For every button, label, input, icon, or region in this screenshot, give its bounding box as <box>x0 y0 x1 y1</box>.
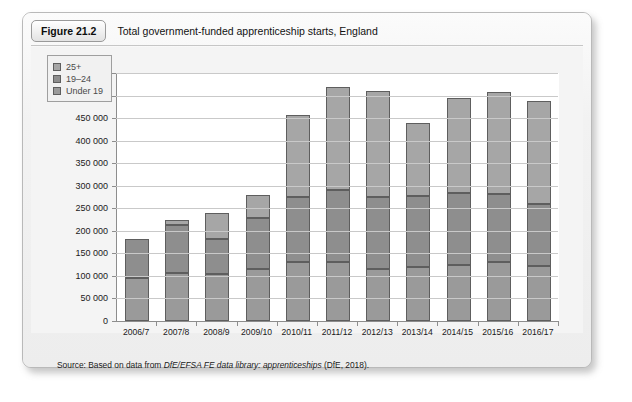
bar-segment[interactable] <box>326 190 350 263</box>
y-axis-tick <box>112 186 116 187</box>
bar-segment[interactable] <box>366 91 390 197</box>
plot-area <box>116 73 559 322</box>
legend-label-19-24: 19–24 <box>66 74 91 84</box>
bar-segment[interactable] <box>165 220 189 225</box>
figure-page: Figure 21.2 Total government-funded appr… <box>0 0 632 402</box>
chart-legend: 25+ 19–24 Under 19 <box>47 55 112 102</box>
bar-segment[interactable] <box>406 123 430 196</box>
bar-group[interactable] <box>165 73 189 321</box>
bar-segment[interactable] <box>487 92 511 193</box>
source-prefix: Source: Based on data from <box>57 360 164 370</box>
gridline <box>116 231 558 232</box>
x-axis-tick <box>196 322 197 326</box>
y-axis-tick <box>112 208 116 209</box>
chart-panel: 050 000100 000150 000200 000250 000300 0… <box>31 47 583 333</box>
y-axis-tick-label: 200 000 <box>48 226 108 236</box>
legend-label-under19: Under 19 <box>66 86 103 96</box>
x-axis-tick <box>237 322 238 326</box>
bar-group[interactable] <box>527 73 551 321</box>
y-axis-tick <box>112 141 116 142</box>
figure-number-badge: Figure 21.2 <box>31 20 106 42</box>
bar-segment[interactable] <box>205 213 229 239</box>
header-divider <box>31 45 583 46</box>
bar-segment[interactable] <box>165 273 189 321</box>
bar-group[interactable] <box>447 73 471 321</box>
x-axis-tick <box>397 322 398 326</box>
x-axis-tick <box>437 322 438 326</box>
bar-segment[interactable] <box>447 98 471 193</box>
y-axis-tick-label: 350 000 <box>48 158 108 168</box>
gridline <box>116 186 558 187</box>
bar-segment[interactable] <box>527 266 551 321</box>
y-axis-tick <box>112 298 116 299</box>
bar-segment[interactable] <box>246 218 270 269</box>
bar-segment[interactable] <box>326 262 350 321</box>
legend-swatch-19-24 <box>53 75 61 83</box>
gridline <box>116 163 558 164</box>
y-axis-tick-label: 100 000 <box>48 271 108 281</box>
figure-card: Figure 21.2 Total government-funded appr… <box>22 12 592 368</box>
bar-segment[interactable] <box>527 204 551 266</box>
y-axis-tick <box>112 276 116 277</box>
bar-segment[interactable] <box>527 101 551 204</box>
source-caption: Source: Based on data from DfE/EFSA FE d… <box>57 360 369 370</box>
gridline <box>116 276 558 277</box>
y-axis-tick <box>112 321 116 322</box>
gridline <box>116 253 558 254</box>
bar-group[interactable] <box>286 73 310 321</box>
bar-segment[interactable] <box>447 265 471 321</box>
bar-group[interactable] <box>406 73 430 321</box>
y-axis-tick-label: 0 <box>48 316 108 326</box>
bar-group[interactable] <box>246 73 270 321</box>
gridline <box>116 73 558 74</box>
gridline <box>116 96 558 97</box>
stacked-bar-chart: 050 000100 000150 000200 000250 000300 0… <box>31 47 583 333</box>
y-axis-tick-label: 50 000 <box>48 293 108 303</box>
y-axis-tick-label: 150 000 <box>48 248 108 258</box>
bar-segment[interactable] <box>286 197 310 261</box>
legend-label-25plus: 25+ <box>66 62 81 72</box>
figure-header: Figure 21.2 Total government-funded appr… <box>31 20 583 42</box>
bar-group[interactable] <box>125 73 149 321</box>
x-axis-tick <box>357 322 358 326</box>
legend-swatch-under19 <box>53 87 61 95</box>
source-italic: DfE/EFSA FE data library: apprenticeship… <box>164 360 322 370</box>
bar-segment[interactable] <box>326 87 350 190</box>
source-suffix: (DfE, 2018). <box>322 360 369 370</box>
legend-item-under19: Under 19 <box>53 85 103 96</box>
bar-segment[interactable] <box>246 195 270 218</box>
figure-title: Total government-funded apprenticeship s… <box>117 25 377 37</box>
gridline <box>116 118 558 119</box>
y-axis-tick <box>112 73 116 74</box>
x-axis-tick <box>558 322 559 326</box>
y-axis-tick <box>112 231 116 232</box>
gridline <box>116 298 558 299</box>
y-axis-tick <box>112 163 116 164</box>
x-axis-tick <box>277 322 278 326</box>
legend-item-25plus: 25+ <box>53 61 103 72</box>
legend-swatch-25plus <box>53 63 61 71</box>
bar-group[interactable] <box>487 73 511 321</box>
gridline <box>116 141 558 142</box>
x-axis-tick <box>317 322 318 326</box>
bar-segment[interactable] <box>487 262 511 321</box>
y-axis-tick-label: 250 000 <box>48 203 108 213</box>
x-axis-tick <box>518 322 519 326</box>
x-axis-tick-label: 2016/17 <box>508 327 568 337</box>
bar-group[interactable] <box>326 73 350 321</box>
bars-layer <box>117 73 559 321</box>
bar-segment[interactable] <box>125 239 149 278</box>
bar-segment[interactable] <box>165 225 189 274</box>
bar-segment[interactable] <box>205 239 229 274</box>
bar-group[interactable] <box>366 73 390 321</box>
bar-segment[interactable] <box>487 194 511 262</box>
gridline <box>116 208 558 209</box>
bar-segment[interactable] <box>366 269 390 321</box>
bar-segment[interactable] <box>286 262 310 321</box>
y-axis-tick-label: 450 000 <box>48 113 108 123</box>
legend-item-19-24: 19–24 <box>53 73 103 84</box>
x-axis-tick <box>156 322 157 326</box>
y-axis-tick <box>112 118 116 119</box>
bar-group[interactable] <box>205 73 229 321</box>
y-axis-tick <box>112 96 116 97</box>
